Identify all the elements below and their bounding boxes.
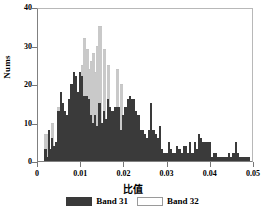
chart-legend: Band 31 Band 32 <box>0 197 265 206</box>
x-axis-tick-mark <box>167 162 168 167</box>
legend-label-band-32: Band 32 <box>167 197 199 206</box>
x-axis-tick-label: 0.03 <box>150 170 184 178</box>
y-axis-tick-label: 20 <box>10 81 32 89</box>
histogram-chart: Nums 010203040 00.010.020.030.040.05 比值 … <box>0 0 265 215</box>
legend-item-band-31: Band 31 <box>66 197 128 206</box>
histogram-bar-band-31 <box>249 157 250 161</box>
band-31-swatch <box>66 197 92 206</box>
x-axis-tick-mark <box>210 162 211 167</box>
plot-area <box>37 8 253 162</box>
x-axis-tick-label: 0.01 <box>63 170 97 178</box>
x-axis-tick-mark <box>37 162 38 167</box>
x-axis-tick-mark <box>253 162 254 167</box>
legend-label-band-31: Band 31 <box>96 197 128 206</box>
bars-layer <box>38 9 252 161</box>
band-32-swatch <box>137 197 163 206</box>
x-axis-tick-label: 0.02 <box>106 170 140 178</box>
y-axis-tick-label: 10 <box>10 120 32 128</box>
x-axis-tick-mark <box>80 162 81 167</box>
y-axis-tick-label: 40 <box>10 4 32 12</box>
x-axis-tick-label: 0 <box>20 170 54 178</box>
x-axis-label: 比值 <box>0 181 265 196</box>
x-axis-tick-mark <box>123 162 124 167</box>
y-axis-tick-label: 30 <box>10 43 32 51</box>
y-axis-tick-label: 0 <box>10 158 32 166</box>
x-axis-tick-label: 0.05 <box>236 170 265 178</box>
x-axis-tick-label: 0.04 <box>193 170 227 178</box>
legend-item-band-32: Band 32 <box>137 197 199 206</box>
